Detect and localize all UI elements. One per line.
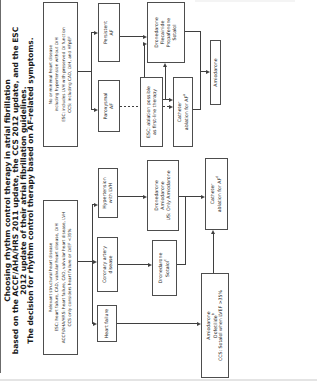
arrowhead-cath-d-top [201,195,205,199]
footnote-sup-b: b [211,313,215,315]
connector-dron-amio-to-cath-d [179,196,201,197]
connector-dron-sot-down [177,264,185,265]
arrowhead-dron-sot [148,263,152,267]
connector-minimal-stem [78,71,91,72]
box-coronary-artery-disease: Coronary artery disease [97,237,118,292]
footnote-sup-a: a [182,94,186,96]
box-text-line: disease [108,256,114,274]
connector-t-to-drugs [165,67,166,100]
title-line-4: The decision for rhythm control therapy … [27,0,35,381]
box-persistent-af: Persistent AF [98,3,120,62]
box-text-line: AF [109,30,115,36]
connector-relevant-stem [78,261,92,262]
connector-relevant-branch [92,204,93,324]
arrowhead-paroxysmal [94,108,98,112]
box-text-line: CCS: Sotalol when LVEF >35% [218,290,224,361]
box-paroxysmal-af: Paroxysmal AF [98,80,120,132]
ablation-label: ablation for AF [217,178,222,212]
connector-drugs-down [185,31,200,32]
drug-name: Sotalol [165,261,170,277]
arrowhead-heart-failure [93,322,97,326]
box-no-or-minimal-heart-disease: No or minimal heart disease including hy… [43,2,78,147]
box-dronedarone-flecainide-propafenone-sotalol: Dronedarone Flecainide Propafenone Sotal… [147,2,185,63]
box-catheter-ablation-af-d: Catheter ablation for AFd [205,158,228,230]
arrowhead-cath-a-dashed [169,105,173,109]
arrowhead-persistent [94,31,98,35]
arrowhead-htn [94,203,98,207]
box-text-line: AF [109,103,115,109]
box-text-line: with LVH [108,183,114,203]
box-hypertension-with-lvh: Hypertension with LVH [98,168,118,218]
arrowhead-drugs-top-1 [143,35,147,39]
arrowhead-cad [93,260,97,264]
footnote-sup-d: d [215,176,219,178]
arrowhead-cath-a-solid [169,98,173,102]
connector-htn-to-dron-amio [118,196,143,197]
figure-title: Choosing rhythm control therapy in atria… [4,0,35,381]
box-relevant-structural-heart-disease: Relevant structural heart disease ESC: h… [43,200,78,355]
connector-hf-to-amio-dof [117,323,197,324]
arrowhead-dron-amio [143,195,147,199]
connector-dron-sot-join [185,197,186,265]
connector-cath-a-down [193,109,200,110]
box-text-line: Sotalol [172,24,178,40]
box-text-line: CCS only considers heart failure or LVEF… [67,229,73,327]
connector-esc-to-drugs [144,44,145,77]
box-amiodarone: Amiodarone [210,40,221,105]
right-edge-artifact [195,0,295,2]
box-amiodarone-dofetilide: Amiodarone Dofetilideb CCS: Sotalol when… [201,273,229,378]
flowchart-canvas: Choosing rhythm control therapy in atria… [0,0,317,381]
box-text-line: as first-line therapy [152,89,158,135]
drug-name: Dofetilide [212,315,217,338]
arrowhead-amiodarone [206,70,210,74]
box-dronedarone-sotalol: Dronedarone Sotalolc [152,240,177,296]
box-esc-ablation-first-line-note: ESC: ablation possible as first-line the… [140,77,163,147]
box-text-line: US: Only Amiodarone [166,170,172,220]
box-text-line: Amiodarone [213,58,219,86]
connector-minimal-branch [91,32,92,110]
box-heart-failure: Heart failure [97,305,117,342]
arrowhead-drugs-top-2 [143,42,147,46]
arrowhead-cath-d-left [211,230,215,234]
box-text-line: CCS: including CAD, LVH, and HFpEF [67,36,73,112]
box-text-line: Sotalolc [164,259,171,277]
connector-persistent-to-drugs [120,36,143,37]
arrowhead-drugs-left [163,63,167,67]
box-text-line: ablation for AFa [183,94,190,130]
connector-amio-dof-to-cath-d [213,234,214,273]
top-rule-line [0,0,1,373]
box-text-line: Heart failure [104,309,110,338]
box-text-line: ablation for AFd [216,176,223,213]
ablation-label: ablation for AF [183,96,188,130]
connector-cad-to-dron-sot [118,264,148,265]
box-catheter-ablation-af-a: Catheter ablation for AFa [173,77,193,147]
dashed-paroxysmal-to-esc [120,106,140,107]
footnote-sup-c: c [163,259,167,261]
box-dronedarone-amiodarone-us: Dronedarone Amiodarone US: Only Amiodaro… [147,160,179,231]
arrowhead-amio-dof [197,322,201,326]
af-rhythm-control-figure: Choosing rhythm control therapy in atria… [0,0,317,381]
